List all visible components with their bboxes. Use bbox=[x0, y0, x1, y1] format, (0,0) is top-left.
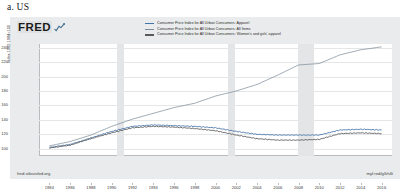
x-axis-tick-mark bbox=[195, 183, 196, 185]
y-axis-tick-label: 180 bbox=[0, 89, 8, 93]
y-axis-tick-label: 100 bbox=[0, 147, 8, 151]
fred-chart-card: FRED Consumer Price Index for All Urban … bbox=[10, 17, 400, 179]
x-axis-tick-mark bbox=[91, 183, 92, 185]
y-axis-tick-label: 120 bbox=[0, 132, 8, 136]
x-axis-tick-label: 2006 bbox=[273, 185, 282, 189]
legend-item[interactable]: Consumer Price Index for All Urban Consu… bbox=[145, 32, 385, 38]
source-label: fred.stlouisfed.org bbox=[17, 171, 50, 176]
x-axis-tick-mark bbox=[340, 183, 341, 185]
x-axis-tick-label: 1998 bbox=[190, 185, 199, 189]
x-axis-tick-mark bbox=[132, 183, 133, 185]
x-axis-tick-mark bbox=[174, 183, 175, 185]
series-line bbox=[49, 126, 381, 148]
y-axis-tick-label: 160 bbox=[0, 103, 8, 107]
x-axis-tick-label: 2002 bbox=[232, 185, 241, 189]
x-axis-tick-mark bbox=[382, 183, 383, 185]
x-axis-tick-mark bbox=[361, 183, 362, 185]
legend-swatch-all-items bbox=[145, 29, 154, 30]
x-axis-tick-mark bbox=[112, 183, 113, 185]
x-axis-tick-mark bbox=[216, 183, 217, 185]
y-axis-tick-label: 200 bbox=[0, 75, 8, 79]
x-axis-tick-label: 1994 bbox=[149, 185, 158, 189]
plot-area: 100120140160180200220240 198419861988199… bbox=[39, 44, 392, 156]
legend-swatch-apparel bbox=[145, 23, 154, 24]
legend-label-womens-girls: Consumer Price Index for All Urban Consu… bbox=[157, 32, 281, 38]
x-axis-tick-label: 1996 bbox=[169, 185, 178, 189]
data-lines bbox=[39, 44, 392, 156]
fred-squiggle-icon bbox=[54, 23, 65, 32]
y-axis-tick-label: 220 bbox=[0, 60, 8, 64]
legend-swatch-womens-girls bbox=[145, 34, 154, 35]
x-axis-tick-mark bbox=[49, 183, 50, 185]
y-axis-tick-label: 140 bbox=[0, 118, 8, 122]
x-axis-tick-label: 2010 bbox=[315, 185, 324, 189]
figure-caption: a. US bbox=[7, 2, 29, 12]
short-url-label: myf.red/g/kh4t bbox=[366, 171, 393, 176]
x-axis-tick-label: 2014 bbox=[356, 185, 365, 189]
x-axis-tick-mark bbox=[153, 183, 154, 185]
x-axis-tick-label: 2004 bbox=[252, 185, 261, 189]
fred-logo-text: FRED bbox=[17, 21, 52, 33]
x-axis-tick-mark bbox=[319, 183, 320, 185]
legend-label-apparel: Consumer Price Index for All Urban Consu… bbox=[157, 21, 249, 27]
x-axis-tick-label: 1988 bbox=[86, 185, 95, 189]
x-axis-tick-mark bbox=[257, 183, 258, 185]
chart-legend: Consumer Price Index for All Urban Consu… bbox=[145, 21, 385, 38]
x-axis-tick-label: 1992 bbox=[128, 185, 137, 189]
x-axis-tick-label: 1990 bbox=[107, 185, 116, 189]
x-axis-tick-label: 1984 bbox=[45, 185, 54, 189]
x-axis-tick-mark bbox=[236, 183, 237, 185]
x-axis-tick-label: 1986 bbox=[66, 185, 75, 189]
x-axis-tick-label: 2016 bbox=[377, 185, 386, 189]
x-axis-tick-mark bbox=[278, 183, 279, 185]
fred-logo[interactable]: FRED bbox=[17, 21, 65, 33]
x-axis-tick-mark bbox=[299, 183, 300, 185]
x-axis-tick-label: 2008 bbox=[294, 185, 303, 189]
x-axis-tick-label: 2000 bbox=[211, 185, 220, 189]
x-axis-tick-mark bbox=[70, 183, 71, 185]
y-axis-tick-label: 240 bbox=[0, 46, 8, 50]
x-axis-tick-label: 2012 bbox=[336, 185, 345, 189]
